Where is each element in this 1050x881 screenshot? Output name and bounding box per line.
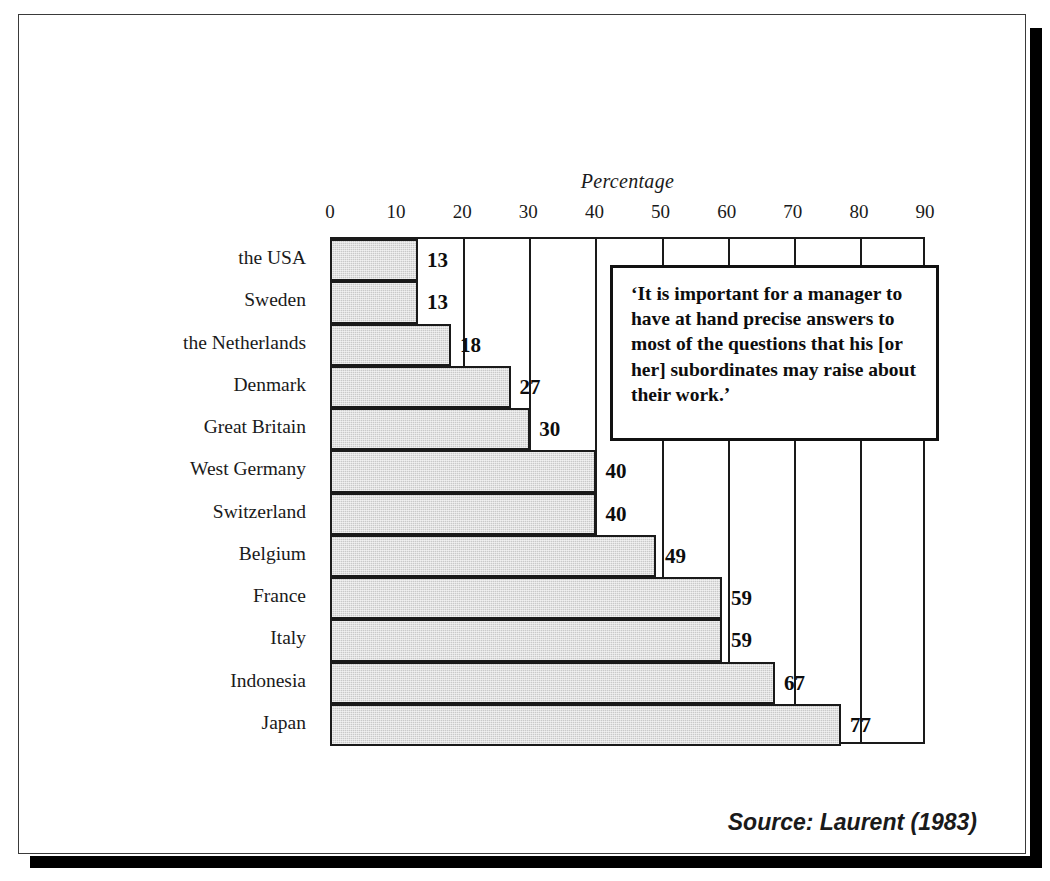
bar-switzerland — [330, 493, 596, 535]
category-label-indonesia: Indonesia — [109, 660, 318, 702]
bar-belgium — [330, 535, 656, 577]
frame-drop-shadow-right — [1030, 28, 1042, 868]
x-tick-label-40: 40 — [564, 201, 624, 223]
bar-value-label: 67 — [775, 662, 805, 704]
bar-value-label: 30 — [530, 408, 560, 450]
bar-chart: Percentage 0102030405060708090 the USASw… — [19, 15, 1025, 853]
bar-sweden — [330, 281, 418, 323]
x-tick-label-70: 70 — [763, 201, 823, 223]
x-tick-label-90: 90 — [895, 201, 955, 223]
bar-france — [330, 577, 722, 619]
quote-callout: ‘It is important for a manager to have a… — [610, 265, 939, 441]
bar-row: 40 — [332, 493, 923, 535]
x-tick-label-30: 30 — [498, 201, 558, 223]
bar-denmark — [330, 366, 511, 408]
bar-italy — [330, 619, 722, 661]
category-label-japan: Japan — [109, 702, 318, 744]
x-tick-label-60: 60 — [697, 201, 757, 223]
x-tick-label-10: 10 — [366, 201, 426, 223]
category-label-belgium: Belgium — [109, 533, 318, 575]
source-note: Source: Laurent (1983) — [728, 809, 977, 836]
category-label-the-usa: the USA — [109, 237, 318, 279]
bar-row: 77 — [332, 704, 923, 746]
category-axis-labels: the USASwedenthe NetherlandsDenmarkGreat… — [109, 237, 318, 744]
category-label-denmark: Denmark — [109, 364, 318, 406]
bar-indonesia — [330, 662, 775, 704]
category-label-great-britain: Great Britain — [109, 406, 318, 448]
figure-frame: Percentage 0102030405060708090 the USASw… — [18, 14, 1026, 854]
bar-great-britain — [330, 408, 530, 450]
category-label-italy: Italy — [109, 617, 318, 659]
x-tick-label-20: 20 — [432, 201, 492, 223]
frame-drop-shadow-bottom — [30, 856, 1042, 868]
bar-row: 59 — [332, 577, 923, 619]
bar-value-label: 27 — [511, 366, 541, 408]
x-tick-label-80: 80 — [829, 201, 889, 223]
bar-row: 49 — [332, 535, 923, 577]
category-label-west-germany: West Germany — [109, 448, 318, 490]
bar-row: 59 — [332, 619, 923, 661]
bar-value-label: 59 — [722, 619, 752, 661]
bar-value-label: 13 — [418, 239, 448, 281]
category-label-sweden: Sweden — [109, 279, 318, 321]
bar-row: 40 — [332, 450, 923, 492]
bar-value-label: 13 — [418, 281, 448, 323]
bar-japan — [330, 704, 841, 746]
bar-west-germany — [330, 450, 596, 492]
category-label-the-netherlands: the Netherlands — [109, 322, 318, 364]
bar-value-label: 18 — [451, 324, 481, 366]
bar-the-netherlands — [330, 324, 451, 366]
bar-value-label: 40 — [596, 493, 626, 535]
bar-value-label: 49 — [656, 535, 686, 577]
bar-value-label: 59 — [722, 577, 752, 619]
category-label-switzerland: Switzerland — [109, 491, 318, 533]
bar-value-label: 40 — [596, 450, 626, 492]
category-label-france: France — [109, 575, 318, 617]
bar-value-label: 77 — [841, 704, 871, 746]
x-axis-title: Percentage — [330, 170, 925, 193]
bar-row: 67 — [332, 662, 923, 704]
x-tick-label-50: 50 — [631, 201, 691, 223]
bar-the-usa — [330, 239, 418, 281]
x-tick-label-0: 0 — [300, 201, 360, 223]
